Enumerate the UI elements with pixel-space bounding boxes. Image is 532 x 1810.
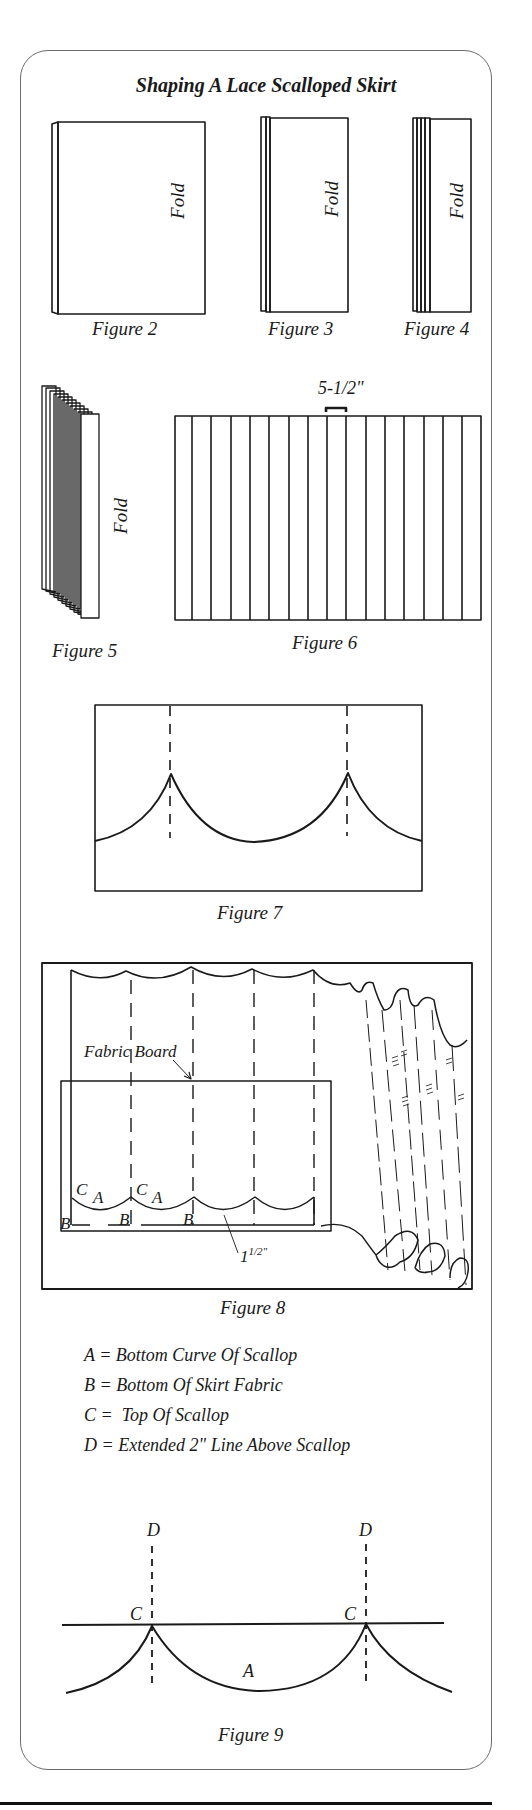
figure-6-measure: 5-1/2" — [318, 378, 364, 399]
instruction-page: Shaping A Lace Scalloped Skirt — [0, 0, 532, 1810]
figure-4-caption: Figure 4 — [404, 318, 469, 340]
legend: A = Bottom Curve Of Scallop B = Bottom O… — [84, 1340, 350, 1460]
fold-label-fig3: Fold — [321, 181, 343, 217]
fig9-label-c2: C — [344, 1604, 356, 1625]
fig8-label-a2: A — [152, 1188, 162, 1208]
figure-5-caption: Figure 5 — [52, 640, 117, 662]
bottom-rule — [0, 1802, 492, 1805]
fig8-label-c2: C — [136, 1180, 147, 1200]
figure-9-caption: Figure 9 — [218, 1724, 283, 1746]
fold-label-fig4: Fold — [446, 183, 468, 219]
legend-item-a: A = Bottom Curve Of Scallop — [84, 1340, 350, 1370]
fig9-label-a: A — [243, 1661, 254, 1682]
figure-3-caption: Figure 3 — [268, 318, 333, 340]
fig9-label-d1: D — [147, 1520, 160, 1541]
fig8-measure: 11/2" — [240, 1245, 267, 1267]
fold-label-fig2: Fold — [167, 183, 189, 219]
fig8-label-b1: B — [60, 1214, 70, 1234]
figure-8-drawing — [42, 963, 472, 1289]
fig8-measure-fraction: 1/2" — [249, 1245, 268, 1257]
figure-2-caption: Figure 2 — [92, 318, 157, 340]
fig8-label-a1: A — [93, 1188, 103, 1208]
figure-7-caption: Figure 7 — [217, 902, 282, 924]
fig9-label-d2: D — [359, 1520, 372, 1541]
legend-item-d: D = Extended 2" Line Above Scallop — [84, 1430, 350, 1460]
figure-7-drawing — [95, 705, 422, 891]
legend-item-c: C = Top Of Scallop — [84, 1400, 350, 1430]
fig8-label-c1: C — [76, 1180, 87, 1200]
fig8-label-b2: B — [119, 1210, 129, 1230]
fold-label-fig5: Fold — [110, 498, 132, 534]
legend-item-b: B = Bottom Of Skirt Fabric — [84, 1370, 350, 1400]
figure-8-caption: Figure 8 — [220, 1297, 285, 1319]
fig9-label-c1: C — [130, 1604, 142, 1625]
figure-6-drawing — [175, 408, 481, 620]
figure-6-caption: Figure 6 — [292, 632, 357, 654]
fabric-board-label: Fabric Board — [84, 1042, 176, 1062]
fig8-label-b3: B — [183, 1210, 193, 1230]
figure-5-drawing — [42, 386, 99, 618]
figure-9-drawing — [62, 1544, 452, 1693]
fig8-measure-whole: 1 — [240, 1247, 249, 1266]
